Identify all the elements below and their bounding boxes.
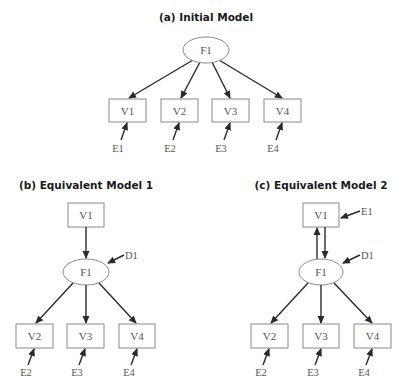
error-e1-label: E1 bbox=[361, 206, 373, 217]
indicator-v3-label: V3 bbox=[79, 330, 93, 342]
error-e4-label: E4 bbox=[123, 367, 135, 378]
path-f1-v2 bbox=[36, 283, 73, 323]
indicator-v2-label: V2 bbox=[263, 330, 276, 342]
indicator-v3-label: V3 bbox=[224, 105, 238, 117]
cause-v1-label: V1 bbox=[79, 209, 92, 221]
disturbance-path-d1 bbox=[108, 255, 124, 263]
error-path-e3 bbox=[79, 349, 85, 365]
error-e2-label: E2 bbox=[255, 367, 267, 378]
indicator-v4-label: V4 bbox=[276, 105, 290, 117]
disturbance-path-d1 bbox=[343, 255, 360, 263]
error-e3-label: E3 bbox=[71, 367, 83, 378]
panel-c-equivalent-model-2: (c) Equivalent Model 2 V1 E1 F1 D1 V2 V3… bbox=[251, 179, 391, 378]
path-f1-v4 bbox=[334, 283, 372, 323]
error-e4-label: E4 bbox=[267, 143, 279, 154]
error-e1-label: E1 bbox=[112, 143, 124, 154]
error-path-e3 bbox=[315, 349, 321, 365]
error-path-e2 bbox=[28, 349, 34, 365]
error-path-e4 bbox=[276, 123, 282, 140]
error-path-e1 bbox=[121, 123, 127, 140]
disturbance-d1-label: D1 bbox=[125, 250, 138, 261]
sem-diagram: (a) Initial Model F1 V1 V2 V3 V4 E1 E2 E… bbox=[0, 0, 412, 380]
path-f1-v4 bbox=[219, 60, 282, 98]
panel-b-equivalent-model-1: (b) Equivalent Model 1 V1 F1 D1 V2 V3 V4… bbox=[16, 179, 155, 378]
error-e2-label: E2 bbox=[20, 367, 32, 378]
indicator-v2-label: V2 bbox=[173, 105, 186, 117]
panel-b-title: (b) Equivalent Model 1 bbox=[19, 179, 153, 191]
indicator-v4-label: V4 bbox=[130, 330, 144, 342]
error-path-e1 bbox=[341, 211, 360, 218]
error-path-e4 bbox=[366, 349, 372, 365]
indicator-v3-label: V3 bbox=[314, 330, 328, 342]
factor-f1-label: F1 bbox=[200, 44, 212, 56]
error-e3-label: E3 bbox=[307, 367, 319, 378]
path-f1-v2 bbox=[181, 62, 200, 98]
error-path-e3 bbox=[224, 123, 230, 140]
error-path-e4 bbox=[131, 349, 137, 365]
panel-a-initial-model: (a) Initial Model F1 V1 V2 V3 V4 E1 E2 E… bbox=[109, 11, 301, 154]
panel-c-title: (c) Equivalent Model 2 bbox=[255, 179, 388, 191]
error-e4-label: E4 bbox=[358, 367, 370, 378]
path-f1-v2 bbox=[271, 283, 308, 323]
disturbance-d1-label: D1 bbox=[361, 250, 374, 261]
error-e3-label: E3 bbox=[215, 143, 227, 154]
path-f1-v4 bbox=[99, 283, 136, 323]
indicator-v2-label: V2 bbox=[28, 330, 41, 342]
panel-a-title: (a) Initial Model bbox=[159, 11, 253, 23]
error-path-e2 bbox=[173, 123, 179, 140]
indicator-v4-label: V4 bbox=[366, 330, 380, 342]
path-f1-v3 bbox=[212, 62, 230, 98]
reciprocal-v1-label: V1 bbox=[314, 209, 327, 221]
factor-f1-label: F1 bbox=[315, 266, 327, 278]
error-e2-label: E2 bbox=[164, 143, 176, 154]
error-path-e2 bbox=[263, 349, 269, 365]
factor-f1-label: F1 bbox=[80, 266, 92, 278]
indicator-v1-label: V1 bbox=[121, 105, 134, 117]
